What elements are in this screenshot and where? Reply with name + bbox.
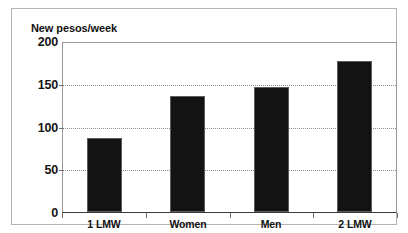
x-tick-mark-1: [146, 213, 147, 218]
y-tick-label-200: 200: [18, 35, 58, 49]
y-tick-mark-50: [59, 170, 64, 171]
bar-2-lmw: [337, 61, 372, 212]
y-axis-labels: 200 150 100 50 0: [14, 42, 58, 213]
chart-screenshot: New pesos/week 200 150 100 50 0: [0, 0, 408, 233]
y-tick-label-50: 50: [18, 163, 58, 177]
y-tick-label-0: 0: [18, 206, 58, 220]
x-axis-label-men: Men: [261, 218, 282, 230]
y-tick-mark-150: [59, 85, 64, 86]
bar-women: [170, 96, 205, 212]
y-tick-mark-100: [59, 128, 64, 129]
x-axis-label-1-lmw: 1 LMW: [87, 218, 120, 230]
x-tick-mark-4: [397, 213, 398, 218]
x-axis-label-women: Women: [169, 218, 206, 230]
bar-men: [254, 87, 289, 212]
x-axis-label-2-lmw: 2 LMW: [338, 218, 371, 230]
bar-1-lmw: [87, 138, 122, 212]
y-tick-label-100: 100: [18, 121, 58, 135]
x-tick-mark-0: [62, 213, 63, 218]
x-tick-mark-3: [313, 213, 314, 218]
plot-area: [62, 42, 397, 213]
figure-frame: New pesos/week 200 150 100 50 0: [11, 8, 397, 225]
y-tick-label-150: 150: [18, 78, 58, 92]
chart-title: New pesos/week: [31, 22, 117, 34]
x-tick-mark-2: [230, 213, 231, 218]
